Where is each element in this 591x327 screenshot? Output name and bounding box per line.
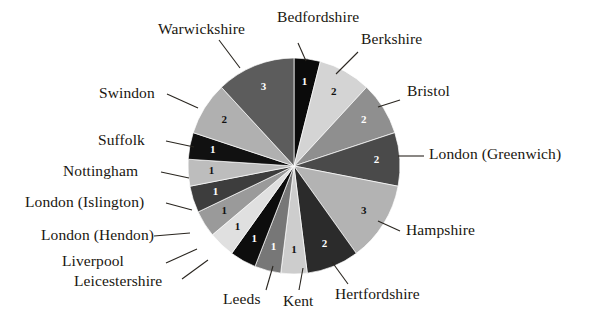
- label-bristol: Bristol: [407, 82, 450, 100]
- slice-value-liverpool: 1: [235, 220, 241, 232]
- leader-line-leicestershire: [182, 260, 208, 279]
- label-warwickshire: Warwickshire: [158, 20, 245, 38]
- leader-line-bristol: [378, 100, 400, 107]
- leader-line-hertfordshire: [332, 262, 348, 284]
- slice-value-leeds: 1: [271, 240, 277, 252]
- slice-value-kent: 1: [291, 243, 297, 255]
- leader-line-nottingham: [161, 172, 189, 178]
- slice-value-warwickshire: 3: [261, 80, 267, 92]
- slice-value-bedfordshire: 1: [302, 75, 308, 87]
- slice-value-london-greenwich: 2: [374, 153, 380, 165]
- label-swindon: Swindon: [99, 84, 155, 102]
- label-london-greenwich: London (Greenwich): [429, 145, 561, 163]
- label-liverpool: Liverpool: [62, 252, 124, 270]
- slice-value-hampshire: 3: [361, 204, 367, 216]
- leader-line-liverpool: [166, 249, 197, 263]
- label-hertfordshire: Hertfordshire: [335, 285, 420, 303]
- slice-value-berkshire: 2: [331, 85, 337, 97]
- label-leeds: Leeds: [223, 290, 261, 308]
- label-nottingham: Nottingham: [63, 162, 138, 180]
- leader-line-london-islington: [166, 203, 192, 210]
- leader-line-swindon: [167, 94, 198, 108]
- label-hampshire: Hampshire: [406, 221, 475, 239]
- chart-canvas: 1222321111111123 Bedfordshire Berkshire …: [0, 0, 591, 327]
- leader-line-berkshire: [336, 52, 358, 74]
- slice-value-hertfordshire: 2: [322, 237, 328, 249]
- slice-value-swindon: 2: [221, 113, 227, 125]
- label-kent: Kent: [283, 292, 314, 310]
- label-suffolk: Suffolk: [98, 131, 145, 149]
- label-london-islington: London (Islington): [25, 193, 144, 211]
- slice-value-london-islington: 1: [213, 185, 219, 197]
- label-london-hendon: London (Hendon): [41, 226, 154, 244]
- label-leicestershire: Leicestershire: [74, 272, 162, 290]
- slice-value-nottingham: 1: [209, 164, 215, 176]
- pie-slices: [188, 58, 400, 274]
- leader-line-london-hendon: [154, 233, 190, 236]
- leader-line-warwickshire: [219, 40, 240, 68]
- label-berkshire: Berkshire: [361, 30, 422, 48]
- leader-line-suffolk: [166, 141, 194, 147]
- slice-value-leicestershire: 1: [251, 232, 257, 244]
- slice-value-bristol: 2: [361, 113, 367, 125]
- label-bedfordshire: Bedfordshire: [277, 8, 359, 26]
- slice-value-suffolk: 1: [210, 143, 216, 155]
- slice-value-london-hendon: 1: [221, 204, 227, 216]
